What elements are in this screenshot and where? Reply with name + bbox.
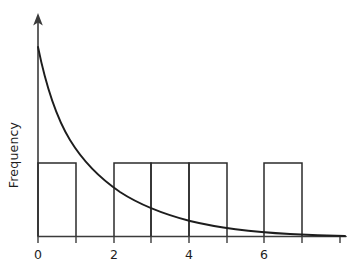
x-tick-label-4: 4	[185, 247, 193, 262]
x-tick-label-6: 6	[260, 247, 268, 262]
x-tick-labels: 0 2 4 6	[34, 247, 268, 262]
x-tick-label-2: 2	[110, 247, 118, 262]
chart-canvas: 0 2 4 6 Frequency	[0, 0, 360, 270]
bar-bin-6-7	[264, 163, 302, 236]
x-axis	[38, 237, 346, 244]
histogram-figure: 0 2 4 6 Frequency	[0, 0, 360, 270]
x-axis-ticks	[38, 237, 340, 244]
bar-bin-0-1	[38, 163, 76, 236]
y-axis-label: Frequency	[6, 121, 21, 188]
histogram-bars	[38, 163, 302, 236]
exponential-fit-curve	[38, 47, 345, 236]
bar-bin-3-4	[151, 163, 189, 236]
x-tick-label-0: 0	[34, 247, 42, 262]
